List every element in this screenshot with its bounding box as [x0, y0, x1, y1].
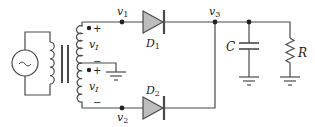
capacitor-icon [239, 22, 259, 77]
diode-d2-icon [143, 96, 164, 120]
label-c: C [226, 40, 235, 54]
circuit-diagram: v1 v2 v3 vI vI D1 D2 C R + − + − [0, 0, 315, 127]
label-v1: v1 [117, 5, 128, 19]
ac-source-icon [12, 50, 38, 76]
secondary-coil-bottom-icon [77, 63, 82, 108]
output-bottom-wire [164, 22, 215, 108]
minus-bottom: − [93, 97, 101, 108]
plus-bottom: + [93, 65, 101, 76]
node-v1-dot [120, 20, 125, 25]
transformer-core-icon [62, 45, 68, 83]
diode-d1-icon [143, 10, 164, 34]
node-c-dot [247, 20, 252, 25]
output-top-wire [164, 22, 290, 38]
polarity-dot-bottom [87, 68, 91, 72]
plus-top: + [93, 23, 101, 34]
label-d1: D1 [145, 37, 160, 51]
polarity-dot-top [87, 26, 91, 30]
capacitor-ground-icon [239, 77, 259, 85]
label-d2: D2 [145, 84, 160, 98]
ground-icon [106, 72, 126, 80]
primary-coil-icon [50, 42, 54, 84]
label-vI-bottom: vI [89, 80, 99, 94]
secondary-coil-top-icon [76, 22, 82, 63]
node-v2-dot [120, 106, 125, 111]
resistor-icon [286, 38, 294, 77]
label-v2: v2 [117, 111, 128, 125]
label-r: R [297, 46, 307, 60]
node-v3-dot [213, 20, 218, 25]
label-v3: v3 [209, 5, 220, 19]
resistor-ground-icon [280, 77, 300, 85]
label-vI-top: vI [89, 38, 99, 52]
